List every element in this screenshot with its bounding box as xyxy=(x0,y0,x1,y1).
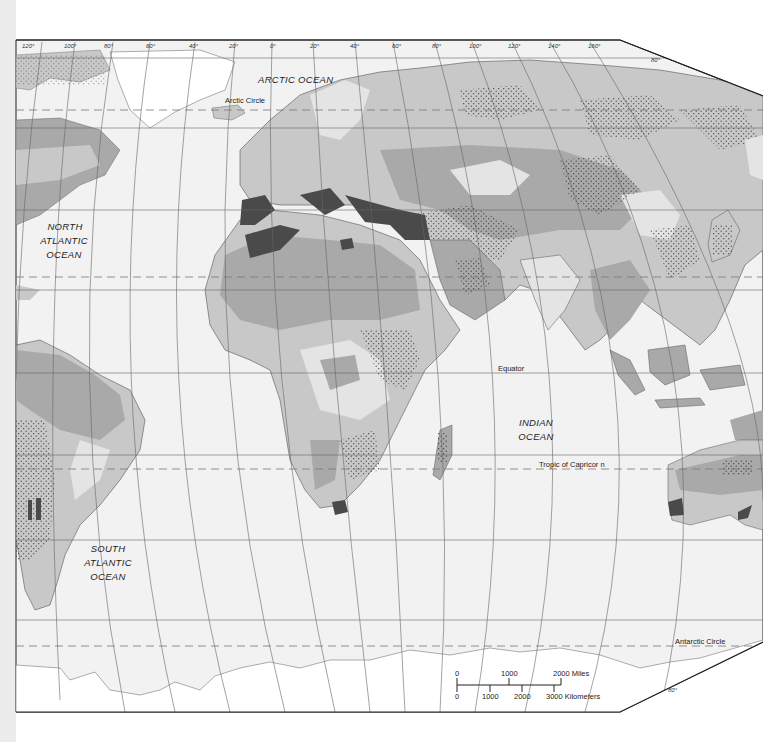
ocean-label-line: SOUTH xyxy=(91,543,126,554)
scale-miles-2000: 2000 Miles xyxy=(553,669,590,678)
scale-km-2000: 2000 xyxy=(514,692,531,701)
lon-label: 60° xyxy=(146,43,156,49)
ocean-label-line: NORTH xyxy=(47,221,82,232)
tropic-of-capricorn-label: Tropic of Capricor n xyxy=(539,460,605,469)
lon-label: 40° xyxy=(350,43,360,49)
equator-label: Equator xyxy=(498,364,525,373)
lon-label: 120° xyxy=(22,43,35,49)
lon-label: 20° xyxy=(228,43,239,49)
lon-label: 60° xyxy=(392,43,402,49)
ocean-label-line: ATLANTIC xyxy=(39,235,88,246)
lon-label: 120° xyxy=(508,43,521,49)
lon-label: 40° xyxy=(189,43,199,49)
ocean-label-line: ATLANTIC xyxy=(83,557,132,568)
ocean-label-line: OCEAN xyxy=(90,571,125,582)
lon-label: 0° xyxy=(270,43,276,49)
scale-km-3000: 3000 Kilometers xyxy=(546,692,600,701)
ocean-label-line: OCEAN xyxy=(518,431,553,442)
ocean-label-line: OCEAN xyxy=(46,249,81,260)
arctic-circle-label: Arctic Circle xyxy=(225,96,265,105)
ocean-label-north-atlantic: NORTH ATLANTIC OCEAN xyxy=(39,221,88,260)
lon-label: 140° xyxy=(548,43,561,49)
lon-label: 100° xyxy=(469,43,482,49)
lat-label-top: 80° xyxy=(651,57,661,63)
lon-label: 80° xyxy=(104,43,114,49)
lon-label: 20° xyxy=(309,43,320,49)
ocean-label-line: INDIAN xyxy=(519,417,553,428)
antarctic-circle-label: Antarctic Circle xyxy=(675,637,725,646)
scale-km-1000: 1000 xyxy=(482,692,499,701)
lat-label-bottom: 80° xyxy=(668,687,678,693)
lon-label: 100° xyxy=(64,43,77,49)
lon-label: 80° xyxy=(432,43,442,49)
scale-miles-1000: 1000 xyxy=(501,669,518,678)
scale-km-0: 0 xyxy=(455,692,459,701)
lon-label: 160° xyxy=(588,43,601,49)
scale-miles-0: 0 xyxy=(455,669,459,678)
ocean-label-south-atlantic: SOUTH ATLANTIC OCEAN xyxy=(83,543,132,582)
ocean-label-arctic: ARCTIC OCEAN xyxy=(257,74,333,85)
world-climate-map[interactable]: 120° 100° 80° 60° 40° 20° 0° 20° 40° 60°… xyxy=(0,0,763,742)
